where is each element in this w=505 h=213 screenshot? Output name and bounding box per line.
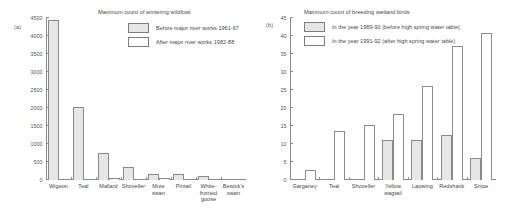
bar-group [96,18,121,180]
x-axis-tick-mark [146,177,147,180]
x-axis-tick-mark [408,177,409,180]
bar [59,179,70,180]
x-axis-category-label: Muteswan [146,183,171,203]
x-axis-tick-mark [437,177,438,180]
bar [411,140,422,180]
y-axis-tick-label: 15 [281,123,291,128]
x-axis-tick-mark [96,177,97,180]
bar-group [290,18,319,180]
x-axis-category-label: Shoveller [349,183,378,196]
x-axis-labels-b: GarganeyTealShovellerYellowwagtailLapwin… [290,183,496,196]
bar-group [46,18,71,180]
bar-group [319,18,348,180]
bar-group [196,18,221,180]
x-axis-tick-mark [319,177,320,180]
x-axis-category-label: Bewick'sswan [221,183,246,203]
y-axis-tick-label: 1500 [31,123,47,128]
y-axis-tick-label: 2000 [31,105,47,110]
bar-group [467,18,496,180]
y-axis-tick-mark [46,35,49,36]
y-axis-tick-label: 4000 [31,33,47,38]
y-axis-tick-label: 40 [281,33,291,38]
y-axis-tick-label: 500 [34,159,47,164]
bar [422,86,433,180]
x-axis-category-label: Teal [319,183,348,196]
bar-group [146,18,171,180]
bar [234,179,245,180]
x-axis-tick-mark [467,177,468,180]
figure-wetland-bird-counts: (a) Maximum count of wintering wildfowl … [0,0,505,213]
y-axis-tick-mark [46,89,49,90]
bar [173,174,184,180]
bar [382,140,393,180]
x-axis-tick-mark [221,177,222,180]
bar [305,170,316,180]
bar-group [378,18,407,180]
bar-group-container-b [290,18,496,180]
y-axis-tick-mark [290,125,293,126]
bar [452,46,463,180]
x-axis-tick-mark [71,177,72,180]
x-axis-category-label: White-frontedgoose [196,183,221,203]
y-axis-tick-mark [46,71,49,72]
bar [123,167,134,180]
bar [148,174,159,180]
x-axis-tick-mark [378,177,379,180]
bar [48,20,59,180]
bar-group [221,18,246,180]
y-axis-tick-mark [46,107,49,108]
y-axis-tick-label: 3500 [31,51,47,56]
y-axis-tick-label: 3000 [31,69,47,74]
bar [159,178,170,180]
x-axis-tick-mark [196,177,197,180]
y-axis-tick-mark [290,107,293,108]
panel-label-b: (b) [266,22,273,28]
plot-area-b: 051015202530354045 [290,18,496,180]
y-axis-tick-mark [290,35,293,36]
bar-group [171,18,196,180]
y-axis-tick-mark [290,161,293,162]
x-axis-category-label: Teal [71,183,96,203]
bar [481,33,492,180]
bar-group [121,18,146,180]
y-axis-tick-mark [290,17,293,18]
x-axis-category-label: Mallard [96,183,121,203]
bar [470,158,481,180]
x-axis-category-label: Snipe [467,183,496,196]
y-axis-tick-mark [46,125,49,126]
x-axis-category-label: Lapwing [408,183,437,196]
y-axis-tick-label: 30 [281,69,291,74]
x-axis-category-label: Garganey [290,183,319,196]
y-axis-tick-mark [46,53,49,54]
y-axis-tick-mark [46,161,49,162]
bar [109,178,120,180]
bar-group-container-a [46,18,246,180]
plot-area-a: 050010001500200025003000350040004500 [46,18,246,180]
y-axis-tick-mark [46,17,49,18]
x-axis-category-label: Pintail [171,183,196,203]
x-axis-category-label: Wigeon [46,183,71,203]
x-axis-tick-mark [171,177,172,180]
bar [393,114,404,180]
y-axis-tick-label: 35 [281,51,291,56]
bar [441,135,452,180]
x-axis-labels-a: WigeonTealMallardShovellerMuteswanPintai… [46,183,246,203]
bar [334,131,345,180]
chart-panel-a: (a) Maximum count of wintering wildfowl … [0,0,253,213]
x-axis-tick-mark [121,177,122,180]
x-axis-category-label: Redshank [437,183,466,196]
y-axis-tick-mark [46,179,49,180]
x-axis-category-label: Shoveller [121,183,146,203]
y-axis-tick-label: 2500 [31,87,47,92]
x-axis-tick-mark [349,177,350,180]
y-axis-tick-label: 10 [281,141,291,146]
bar [98,153,109,180]
bar-group [437,18,466,180]
y-axis-tick-label: 4500 [31,15,47,20]
y-axis-tick-mark [290,71,293,72]
y-axis-tick-label: 45 [281,15,291,20]
bar-group [408,18,437,180]
bar [73,107,84,180]
bar-group [349,18,378,180]
chart-panel-b: (b) Maximum count of breeding wetland bi… [252,0,505,213]
